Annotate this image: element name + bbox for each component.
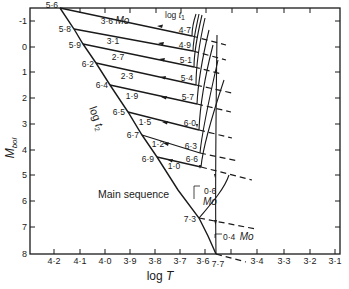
svg-text:3·9: 3·9 xyxy=(123,256,136,266)
log-t2-label: log t2 xyxy=(86,105,107,133)
svg-text:6·7: 6·7 xyxy=(127,130,140,140)
svg-text:6·9: 6·9 xyxy=(142,154,155,164)
svg-text:2: 2 xyxy=(22,93,27,103)
x-axis-ticks xyxy=(54,249,335,254)
svg-text:3·3: 3·3 xyxy=(277,256,290,266)
svg-text:5·9: 5·9 xyxy=(69,40,82,50)
svg-text:0: 0 xyxy=(22,42,27,52)
y-axis-ticks-right xyxy=(335,21,340,227)
svg-text:Mo: Mo xyxy=(203,196,217,207)
svg-text:Mbol: Mbol xyxy=(3,137,19,158)
mass-labels: 3·6 Mo 3·1 2·7 2·3 1·9 1·5 1·2 1·0 xyxy=(101,15,181,171)
svg-text:0·6: 0·6 xyxy=(204,186,217,196)
svg-text:3·8: 3·8 xyxy=(148,256,161,266)
svg-text:-1: -1 xyxy=(19,16,27,26)
svg-text:3·6: 3·6 xyxy=(196,256,209,266)
x-axis-ticks-top xyxy=(80,8,310,13)
svg-text:1·9: 1·9 xyxy=(126,91,139,101)
svg-text:4·2: 4·2 xyxy=(47,256,60,266)
svg-text:3·4: 3·4 xyxy=(250,256,263,266)
svg-text:5: 5 xyxy=(22,170,27,180)
svg-text:3·1: 3·1 xyxy=(107,36,120,46)
svg-text:3·2: 3·2 xyxy=(303,256,316,266)
log-t1-label: log t1 xyxy=(165,10,185,21)
dashed-lines xyxy=(192,36,256,262)
svg-text:log t2: log t2 xyxy=(86,105,107,133)
svg-text:5·6: 5·6 xyxy=(46,0,59,10)
end-point-label: 7·7 xyxy=(212,259,225,269)
svg-text:5·7: 5·7 xyxy=(182,92,195,102)
svg-text:6·3: 6·3 xyxy=(185,141,198,151)
hr-diagram: -1 0 1 2 3 4 5 6 7 8 Mbol xyxy=(0,0,349,289)
svg-text:2·3: 2·3 xyxy=(121,71,134,81)
x-axis-labels: 4·2 4·1 4·0 3·9 3·8 3·7 3·6 3·4 3·3 3·2 … xyxy=(47,256,341,266)
svg-text:6·2: 6·2 xyxy=(82,59,95,69)
svg-text:1·2: 1·2 xyxy=(152,139,165,149)
svg-text:6·4: 6·4 xyxy=(96,80,109,90)
y-axis-ticks xyxy=(30,21,35,227)
svg-text:4·0: 4·0 xyxy=(98,256,111,266)
svg-text:0·4 Mo: 0·4 Mo xyxy=(223,226,254,243)
svg-text:3·7: 3·7 xyxy=(173,256,186,266)
svg-text:1·5: 1·5 xyxy=(139,117,152,127)
main-sequence-label: Main sequence xyxy=(98,188,169,200)
svg-text:7·3: 7·3 xyxy=(184,214,197,224)
y-axis-title: Mbol xyxy=(3,137,19,158)
svg-text:3: 3 xyxy=(22,119,27,129)
svg-text:8: 8 xyxy=(22,249,27,259)
hayashi-tracks xyxy=(192,14,229,254)
svg-text:6·6: 6·6 xyxy=(186,154,199,164)
svg-text:4·9: 4·9 xyxy=(179,40,192,50)
svg-text:4: 4 xyxy=(22,145,27,155)
svg-text:3·6 Mo: 3·6 Mo xyxy=(101,15,130,26)
svg-text:1: 1 xyxy=(22,67,27,77)
mass-0-4-label: 0·4 Mo xyxy=(215,226,254,243)
svg-text:4·7: 4·7 xyxy=(179,25,192,35)
svg-text:3·1: 3·1 xyxy=(328,256,341,266)
svg-text:5·8: 5·8 xyxy=(59,24,72,34)
svg-text:6: 6 xyxy=(22,196,27,206)
svg-text:4·1: 4·1 xyxy=(73,256,86,266)
svg-text:5·1: 5·1 xyxy=(180,55,193,65)
y-axis-labels: -1 0 1 2 3 4 5 6 7 8 xyxy=(19,16,27,259)
svg-text:2·7: 2·7 xyxy=(112,52,125,62)
mass-0-6-label: 0·6 Mo xyxy=(194,186,217,207)
svg-text:7: 7 xyxy=(22,222,27,232)
svg-text:1·0: 1·0 xyxy=(168,161,181,171)
svg-text:6·5: 6·5 xyxy=(113,107,126,117)
x-axis-title: log T xyxy=(147,269,175,283)
svg-text:6·0: 6·0 xyxy=(184,118,197,128)
svg-text:5·4: 5·4 xyxy=(181,73,194,83)
